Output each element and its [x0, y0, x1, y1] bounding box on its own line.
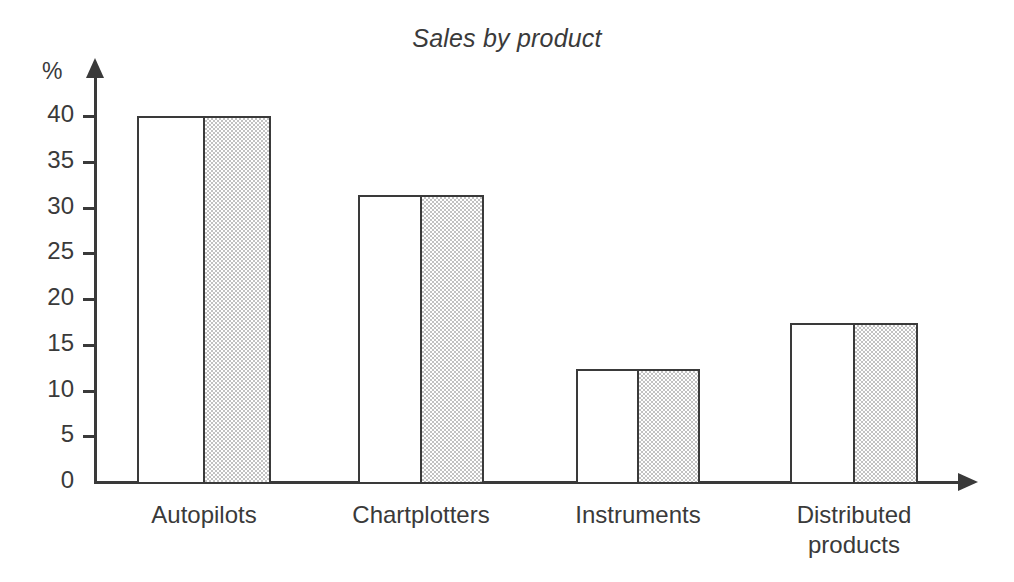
y-tick-label: 40 — [24, 100, 74, 128]
y-tick-mark — [83, 207, 95, 210]
bar — [576, 369, 700, 484]
y-tick-mark — [83, 390, 95, 393]
x-axis-arrow-icon — [958, 473, 978, 491]
y-axis-arrow-icon — [86, 58, 104, 78]
bar — [358, 195, 484, 484]
y-tick-mark — [83, 115, 95, 118]
bar-half-light — [139, 118, 203, 482]
y-tick-mark — [83, 344, 95, 347]
bar — [790, 323, 918, 484]
y-tick-label: 5 — [24, 420, 74, 448]
y-axis-line — [94, 74, 97, 484]
y-tick-mark — [83, 161, 95, 164]
y-tick-label: 10 — [24, 375, 74, 403]
chart-title: Sales by product — [0, 24, 1014, 53]
y-tick-mark — [83, 435, 95, 438]
bar-half-shaded — [637, 371, 698, 482]
sales-by-product-chart: Sales by product % 4035302520151050 Auto… — [0, 0, 1014, 582]
bar — [137, 116, 271, 484]
bar-half-shaded — [853, 325, 916, 482]
y-tick-label: 35 — [24, 146, 74, 174]
x-category-label: Distributed products — [724, 500, 984, 560]
y-tick-label: 0 — [24, 466, 74, 494]
bar-half-light — [360, 197, 420, 482]
y-axis-unit-label: % — [42, 58, 62, 85]
bar-half-light — [578, 371, 637, 482]
y-tick-mark — [83, 298, 95, 301]
bar-half-shaded — [203, 118, 269, 482]
bar-half-light — [792, 325, 853, 482]
y-tick-label: 20 — [24, 283, 74, 311]
y-tick-label: 25 — [24, 237, 74, 265]
y-tick-mark — [83, 252, 95, 255]
y-tick-label: 30 — [24, 192, 74, 220]
bar-half-shaded — [420, 197, 482, 482]
y-tick-label: 15 — [24, 329, 74, 357]
